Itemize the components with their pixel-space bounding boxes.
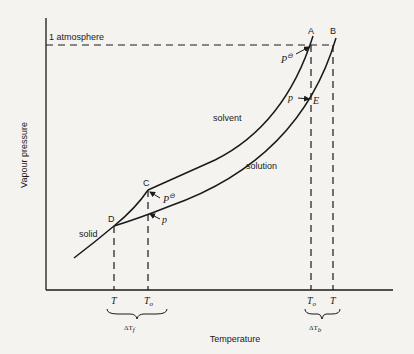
one-atmosphere-label: 1 atmosphere [49,32,104,42]
solution-label: solution [246,161,277,171]
x-axis-label: Temperature [210,334,261,344]
arrow-p-E [298,98,309,99]
arrow-P-C [150,192,160,198]
solid-curve [74,190,148,258]
point-C-label: C [143,178,150,188]
arrow-p-C [150,214,160,219]
tick-T-freeze: T [111,295,118,306]
boiling-brace [305,309,340,319]
tick-T0-freeze: To [144,295,154,308]
tick-T0-boil: To [307,295,317,308]
point-B-label: B [330,26,336,36]
point-E-label: E [312,95,319,106]
point-A-label: A [308,26,314,36]
freezing-brace [107,309,167,319]
p-standard-C-label: P⊖ [162,192,175,205]
solvent-label: solvent [213,113,242,123]
p-standard-A-label: P⊖ [280,52,293,65]
delta-Tb-label: ΔTb [309,324,322,334]
solid-label: solid [79,229,98,239]
p-solution-E-label: p [287,92,293,103]
solution-curve [114,38,336,226]
vapour-pressure-diagram: Vapour pressure Temperature 1 atmosphere… [0,0,414,354]
point-D-label: D [108,214,115,224]
y-axis-label: Vapour pressure [19,122,29,188]
p-solution-C-label: p [161,214,167,225]
tick-T-boil: T [330,295,337,306]
delta-Tf-label: ΔTf [124,324,136,334]
